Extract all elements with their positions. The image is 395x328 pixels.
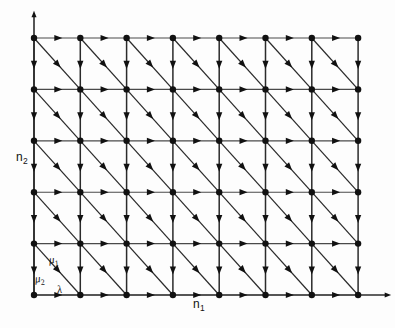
rate-label-mu2: μ2	[34, 272, 45, 288]
arrowhead-mu2	[355, 266, 361, 274]
lattice-node	[31, 138, 37, 144]
arrowhead-mu2	[77, 61, 83, 69]
arrowhead-mu2	[309, 164, 315, 172]
arrowhead-lambda	[54, 138, 62, 144]
arrowhead-mu2	[170, 266, 176, 274]
arrowhead-mu2	[170, 61, 176, 69]
arrowhead-mu2	[355, 112, 361, 120]
lattice-node	[31, 292, 37, 298]
arrowhead-mu2	[170, 215, 176, 223]
arrowhead-lambda	[147, 240, 155, 246]
lattice-node	[123, 86, 129, 92]
arrowhead-lambda	[332, 35, 340, 41]
lattice-node	[355, 189, 361, 195]
arrowhead-lambda	[332, 189, 340, 195]
lattice-node	[355, 240, 361, 246]
lattice-node	[31, 240, 37, 246]
arrowhead-lambda	[193, 35, 201, 41]
arrowhead-mu2	[216, 215, 222, 223]
lattice-node	[309, 35, 315, 41]
arrowhead-mu2	[31, 112, 37, 120]
lattice-node	[77, 35, 83, 41]
lattice-node	[123, 292, 129, 298]
arrowhead-mu2	[31, 61, 37, 69]
lattice-node	[355, 292, 361, 298]
lattice-node	[216, 189, 222, 195]
arrowhead-lambda	[101, 292, 109, 298]
lattice-node	[77, 189, 83, 195]
lattice-node	[309, 189, 315, 195]
arrowhead-lambda	[101, 86, 109, 92]
lattice-node	[31, 86, 37, 92]
lattice-node	[123, 35, 129, 41]
arrowhead-lambda	[286, 86, 294, 92]
arrowhead-mu2	[309, 112, 315, 120]
arrowhead-lambda	[332, 292, 340, 298]
lattice-node	[262, 189, 268, 195]
arrowhead-mu2	[216, 112, 222, 120]
arrowhead-mu2	[77, 112, 83, 120]
arrowhead-lambda	[147, 35, 155, 41]
rate-label-mu1-subscript: 1	[54, 259, 59, 268]
arrowhead-lambda	[147, 138, 155, 144]
x-axis-arrowhead	[385, 292, 392, 297]
arrowhead-lambda	[147, 189, 155, 195]
arrowhead-mu2	[216, 164, 222, 172]
rate-label-mu2-subscript: 2	[40, 278, 45, 287]
arrowhead-mu2	[262, 215, 268, 223]
arrowhead-mu2	[123, 61, 129, 69]
arrowhead-lambda	[54, 35, 62, 41]
rate-label-lambda: λ	[56, 283, 62, 295]
lattice-node	[216, 86, 222, 92]
arrowhead-lambda	[332, 138, 340, 144]
arrowhead-mu2	[216, 266, 222, 274]
lattice-node	[77, 292, 83, 298]
lattice-node	[123, 240, 129, 246]
lattice-node	[170, 292, 176, 298]
arrowhead-mu2	[309, 215, 315, 223]
lattice-figure: n2 n1 μ1 μ2 λ	[0, 0, 395, 328]
arrowhead-lambda	[101, 240, 109, 246]
axes-group	[31, 11, 391, 298]
lattice-node	[31, 189, 37, 195]
lattice-node	[77, 240, 83, 246]
arrowhead-mu2	[355, 61, 361, 69]
lattice-node	[355, 35, 361, 41]
arrowhead-mu2	[309, 61, 315, 69]
arrowhead-mu2	[309, 266, 315, 274]
arrowhead-mu2	[262, 112, 268, 120]
lattice-node	[309, 292, 315, 298]
arrowhead-mu2	[123, 215, 129, 223]
lattice-node	[170, 138, 176, 144]
arrowhead-lambda	[147, 86, 155, 92]
arrowhead-mu2	[355, 164, 361, 172]
arrowhead-lambda	[239, 86, 247, 92]
lattice-node	[216, 292, 222, 298]
x-axis-label: n1	[193, 297, 205, 313]
arrowhead-lambda	[239, 240, 247, 246]
arrowhead-mu2	[170, 112, 176, 120]
arrowhead-lambda	[193, 189, 201, 195]
lattice-node	[170, 35, 176, 41]
lattice-node	[309, 240, 315, 246]
arrowhead-lambda	[286, 240, 294, 246]
lattice-node	[170, 240, 176, 246]
lattice-node	[262, 292, 268, 298]
y-axis-arrowhead	[31, 11, 36, 18]
arrowhead-mu2	[262, 164, 268, 172]
lattice-node	[262, 86, 268, 92]
lattice-node	[262, 138, 268, 144]
arrowhead-mu2	[31, 215, 37, 223]
lattice-node	[123, 138, 129, 144]
y-axis-label: n2	[16, 150, 28, 166]
lattice-node	[262, 35, 268, 41]
lattice-node	[309, 138, 315, 144]
lattice-node	[77, 86, 83, 92]
arrowhead-lambda	[193, 240, 201, 246]
rate-label-mu1: μ1	[48, 253, 59, 269]
arrowhead-lambda	[54, 240, 62, 246]
arrowhead-mu2	[77, 215, 83, 223]
arrowhead-lambda	[332, 86, 340, 92]
arrowhead-mu2	[77, 266, 83, 274]
lattice-node	[77, 138, 83, 144]
